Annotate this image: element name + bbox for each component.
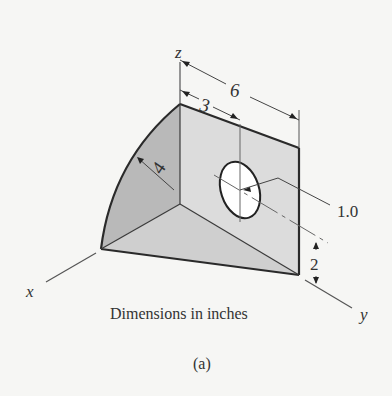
y-axis-label: y: [358, 305, 368, 324]
dim-2-arrow-top: [313, 242, 319, 249]
dim-6-arrow-right: [289, 113, 297, 119]
y-axis-line: [305, 280, 352, 308]
dim-6-arrow-left: [182, 61, 190, 67]
dim-1-label: 1.0: [337, 202, 358, 221]
figure-caption: (a): [193, 355, 211, 373]
dim-2-label: 2: [310, 255, 319, 274]
z-axis-label: z: [174, 43, 182, 62]
dim-6-label: 6: [230, 80, 240, 101]
units-note: Dimensions in inches: [110, 305, 248, 322]
dim-2-arrow-bottom: [313, 277, 319, 284]
dim-3-label: 3: [197, 94, 211, 117]
x-axis-label: x: [25, 282, 34, 301]
solid-diagram: z x y 6 3 4 1.0 2 Dimensions in inches (…: [0, 0, 392, 396]
figure-canvas: z x y 6 3 4 1.0 2 Dimensions in inches (…: [0, 0, 392, 396]
x-axis-line: [46, 253, 96, 282]
